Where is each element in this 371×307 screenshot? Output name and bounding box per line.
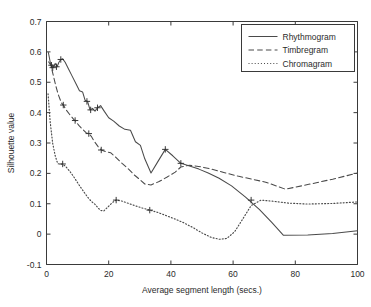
data-markers-group <box>48 56 254 213</box>
y-tick-label: 0.7 <box>30 17 42 27</box>
y-tick-label: 0.3 <box>30 138 42 148</box>
y-tick-label: -0.1 <box>27 260 42 270</box>
series-line-chromagram <box>48 94 357 240</box>
legend-label-rhythmogram: Rhythmogram <box>283 32 336 42</box>
y-tick-label: 0.5 <box>30 77 42 87</box>
series-line-timbregram <box>49 62 358 189</box>
y-tick-label: 0.6 <box>30 47 42 57</box>
x-tick-label: 40 <box>166 269 176 279</box>
y-tick-label: 0.2 <box>30 168 42 178</box>
x-tick-label: 20 <box>104 269 114 279</box>
y-tick-label: 0 <box>37 229 42 239</box>
y-tick-label: 0.1 <box>30 199 42 209</box>
x-tick-label: 0 <box>44 269 49 279</box>
y-tick-label: 0.4 <box>30 108 42 118</box>
legend-label-chromagram: Chromagram <box>283 59 333 69</box>
chart-figure: -0.100.10.20.30.40.50.60.7 020406080100 … <box>0 0 371 307</box>
legend: RhythmogramTimbregramChromagram <box>242 25 355 72</box>
data-series-group <box>48 52 357 239</box>
y-axis-title: Silhouette value <box>6 112 16 173</box>
series-line-rhythmogram <box>48 52 357 235</box>
legend-label-timbregram: Timbregram <box>283 45 329 55</box>
x-tick-label: 80 <box>291 269 301 279</box>
x-tick-label: 100 <box>350 269 364 279</box>
x-axis-title: Average segment length (secs.) <box>142 285 262 295</box>
silhouette-value-line-chart: -0.100.10.20.30.40.50.60.7 020406080100 … <box>0 0 371 307</box>
x-tick-label: 60 <box>228 269 238 279</box>
